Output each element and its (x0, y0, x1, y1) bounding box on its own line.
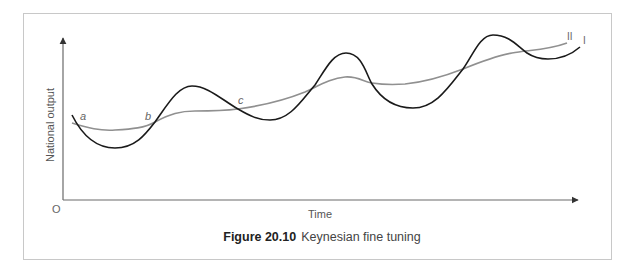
figure-title: Keynesian fine tuning (301, 230, 421, 244)
point-label-b: b (145, 110, 151, 122)
curve-label-II: II (567, 31, 573, 42)
y-axis-label: National output (44, 88, 56, 162)
figure-caption: Figure 20.10Keynesian fine tuning (0, 230, 644, 244)
x-axis-label: Time (308, 208, 332, 220)
point-label-a: a (80, 110, 86, 122)
curve-label-I: I (583, 35, 586, 46)
point-label-c: c (238, 94, 244, 106)
figure-number: Figure 20.10 (223, 230, 296, 244)
curve-I (72, 35, 580, 148)
origin-label: O (52, 203, 61, 215)
